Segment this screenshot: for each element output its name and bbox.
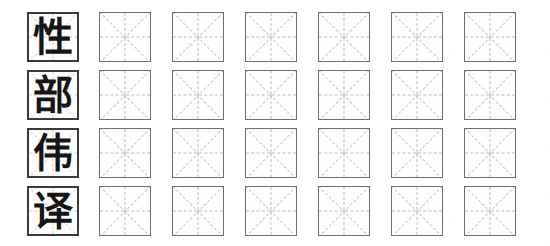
practice-cell-content	[100, 129, 150, 177]
practice-cell-content	[100, 187, 150, 235]
practice-cell-content	[392, 13, 442, 61]
practice-cell[interactable]	[99, 128, 151, 178]
practice-cell-content	[392, 129, 442, 177]
practice-cell-content	[319, 187, 369, 235]
practice-cell[interactable]	[464, 128, 516, 178]
model-character-glyph: 部	[29, 72, 77, 118]
character-row: 译	[0, 186, 550, 244]
model-character-glyph: 译	[29, 188, 77, 234]
model-character-cell: 译	[27, 186, 79, 236]
practice-cell-content	[246, 71, 296, 119]
practice-cell[interactable]	[99, 70, 151, 120]
practice-cell[interactable]	[391, 12, 443, 62]
practice-cell[interactable]	[99, 186, 151, 236]
practice-cell[interactable]	[172, 70, 224, 120]
practice-cell[interactable]	[172, 186, 224, 236]
practice-cell-content	[173, 129, 223, 177]
practice-cell[interactable]	[464, 70, 516, 120]
practice-cell-content	[246, 187, 296, 235]
character-row: 伟	[0, 128, 550, 186]
model-character-cell: 部	[27, 70, 79, 120]
practice-cell-content	[246, 129, 296, 177]
practice-cell[interactable]	[318, 70, 370, 120]
practice-cell-content	[465, 187, 515, 235]
practice-cell[interactable]	[464, 12, 516, 62]
practice-cell[interactable]	[318, 128, 370, 178]
practice-cell[interactable]	[318, 186, 370, 236]
practice-cell-content	[392, 187, 442, 235]
practice-cell-content	[465, 129, 515, 177]
practice-cell-content	[100, 13, 150, 61]
practice-cell[interactable]	[391, 186, 443, 236]
practice-cell-content	[465, 13, 515, 61]
practice-cell-content	[319, 13, 369, 61]
practice-cell[interactable]	[318, 12, 370, 62]
practice-cell[interactable]	[245, 12, 297, 62]
character-practice-worksheet: 性部伟译	[0, 0, 550, 246]
practice-cell[interactable]	[391, 70, 443, 120]
practice-cell[interactable]	[391, 128, 443, 178]
model-character-cell: 性	[27, 12, 79, 62]
model-character-cell: 伟	[27, 128, 79, 178]
practice-cell-content	[100, 71, 150, 119]
practice-cell[interactable]	[464, 186, 516, 236]
practice-cell-content	[173, 13, 223, 61]
practice-cell[interactable]	[245, 186, 297, 236]
character-row: 部	[0, 70, 550, 128]
model-character-glyph: 伟	[29, 130, 77, 176]
practice-cell-content	[319, 129, 369, 177]
practice-cell[interactable]	[245, 70, 297, 120]
practice-cell[interactable]	[99, 12, 151, 62]
practice-cell-content	[465, 71, 515, 119]
practice-cell[interactable]	[172, 12, 224, 62]
model-character-glyph: 性	[29, 14, 77, 60]
character-row: 性	[0, 12, 550, 70]
practice-cell-content	[173, 187, 223, 235]
practice-cell[interactable]	[245, 128, 297, 178]
practice-cell-content	[246, 13, 296, 61]
practice-cell-content	[392, 71, 442, 119]
practice-cell[interactable]	[172, 128, 224, 178]
practice-cell-content	[173, 71, 223, 119]
practice-cell-content	[319, 71, 369, 119]
